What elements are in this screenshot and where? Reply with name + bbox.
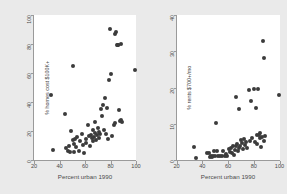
data-point [67,144,71,148]
data-point [51,148,55,152]
data-point [107,78,111,82]
data-point [262,139,266,143]
data-point [245,146,249,150]
x-tick-label-left: 60 [82,164,88,170]
panel-homes-cost: % homes cost $100K+ Percent urban 1990 0… [0,0,144,194]
x-axis-title-left: Percent urban 1990 [34,174,136,180]
data-point [120,120,124,124]
data-point [234,95,238,99]
x-tick-label-left: 40 [56,164,62,170]
data-point [119,42,123,46]
data-point [114,30,118,34]
data-point [93,120,97,124]
data-point [104,132,108,136]
scatter-figure: % homes cost $100K+ Percent urban 1990 0… [0,0,287,194]
data-point [86,123,90,127]
data-point [117,108,121,112]
data-point [69,129,73,133]
x-tick-label-right: 100 [275,164,284,170]
data-point [214,121,218,125]
data-point [192,145,196,149]
data-point [110,134,114,138]
data-point [75,135,79,139]
data-point [88,144,92,148]
data-point [261,39,265,43]
data-point [249,99,253,103]
data-point [103,96,107,100]
plot-area-right: % rents $700+/mo Percent urban 1990 0102… [176,15,280,161]
data-point [133,68,137,72]
data-point [109,72,113,76]
y-tick-label-left: 80 [27,44,32,50]
data-point [256,87,260,91]
data-point [80,132,84,136]
y-tick-label-left: 100 [27,15,32,24]
data-point [237,107,241,111]
data-point [82,151,86,155]
data-point [250,136,254,140]
data-point [247,88,251,92]
data-point [215,149,219,153]
x-tick-label-right: 40 [199,164,205,170]
y-tick-label-right: 40 [170,15,175,21]
data-point [259,145,263,149]
panel-rents: % rents $700+/mo Percent urban 1990 0102… [144,0,288,194]
data-point [97,136,101,140]
x-tick-label-left: 20 [31,164,37,170]
y-axis-title-left: % homes cost $100K+ [45,47,50,127]
x-tick-label-left: 100 [131,164,140,170]
data-point [263,134,267,138]
y-tick-label-right: 10 [170,124,175,130]
x-axis-title-right: Percent urban 1990 [177,174,280,180]
data-point [63,112,67,116]
data-point [254,106,258,110]
data-point [194,156,198,160]
data-point [100,114,104,118]
x-tick-label-right: 60 [225,164,231,170]
x-tick-label-left: 80 [107,164,113,170]
data-point [262,56,266,60]
data-point [105,106,109,110]
y-tick-label-right: 20 [170,88,175,94]
y-axis-title-right: % rents $700+/mo [187,47,192,127]
plot-area-left: % homes cost $100K+ Percent urban 1990 0… [33,15,136,161]
data-point [108,27,112,31]
data-point [106,137,110,141]
y-tick-label-left: 60 [27,73,32,79]
data-point [232,153,236,157]
y-tick-label-left: 20 [27,131,32,137]
data-point [98,132,102,136]
data-point [277,93,281,97]
data-point [72,150,76,154]
data-point [77,149,81,153]
data-point [225,154,229,158]
data-point [113,121,117,125]
data-point [248,139,252,143]
y-tick-label-left: 40 [27,102,32,108]
data-point [99,107,103,111]
x-tick-label-right: 20 [173,164,179,170]
x-tick-label-right: 80 [251,164,257,170]
data-point [71,64,75,68]
y-tick-label-right: 30 [170,51,175,57]
